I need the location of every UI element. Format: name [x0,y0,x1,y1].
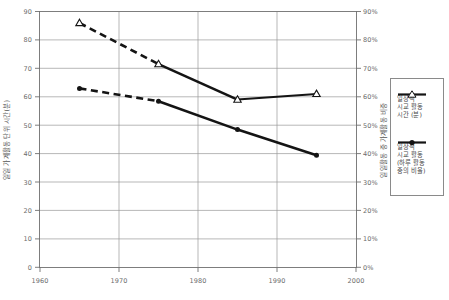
xtick-1990: 1990 [259,277,295,285]
legend-label-share-line4: 중의 비율) [397,167,440,175]
chart-figure: 90 80 70 60 50 40 30 20 10 0 90% 80% 70%… [0,0,449,300]
ytick-left-10: 10 [8,235,32,243]
xtick-1970: 1970 [101,277,137,285]
y-axis-left-title: 일일 가계활동 단위 시간(분) [1,85,11,195]
ytick-left-60: 60 [8,93,32,101]
ytick-left-70: 70 [8,65,32,73]
marker-share-1985 [235,127,240,132]
ytick-left-50: 50 [8,122,32,130]
ytick-right-70: 70% [363,65,391,73]
y-axis-right-title: 일일활동 중 가계활동 비중 [378,85,388,195]
ytick-left-0: 0 [8,264,32,272]
ytick-left-40: 40 [8,150,32,158]
legend-label-share-line2: 시교 활동 [397,151,440,159]
ytick-left-30: 30 [8,179,32,187]
vertical-gridlines [119,12,277,267]
marker-share-1995 [314,153,319,158]
xtick-2000: 2000 [338,277,374,285]
marker-time-1965 [76,19,83,25]
marker-share-1965 [77,86,82,91]
legend-marker-open-triangle [397,84,427,93]
ytick-left-80: 80 [8,36,32,44]
ytick-left-20: 20 [8,207,32,215]
ytick-right-20: 20% [363,207,391,215]
x-axis-ticks [40,267,356,272]
marker-share-1975 [156,99,161,104]
legend-label-share-line3: (하루 활동 [397,159,440,167]
legend-label-time-line3: 시간 (분) [397,111,440,119]
legend-entry-time[interactable]: 일상적 시교 활동 시간 (분) [395,84,440,120]
chart-legend: 일상적 시교 활동 시간 (분) 일상적 시교 활동 (하루 활동 중의 비율) [390,78,444,196]
legend-label-share: 일상적 시교 활동 (하루 활동 중의 비율) [395,143,440,176]
ytick-right-90: 90% [363,8,391,16]
xtick-1980: 1980 [180,277,216,285]
ytick-right-10: 10% [363,235,391,243]
legend-marker-filled-circle [397,132,427,141]
legend-entry-share[interactable]: 일상적 시교 활동 (하루 활동 중의 비율) [395,132,440,176]
xtick-1960: 1960 [22,277,58,285]
ytick-right-80: 80% [363,36,391,44]
ytick-left-90: 90 [8,8,32,16]
ytick-right-0: 0% [363,264,391,272]
